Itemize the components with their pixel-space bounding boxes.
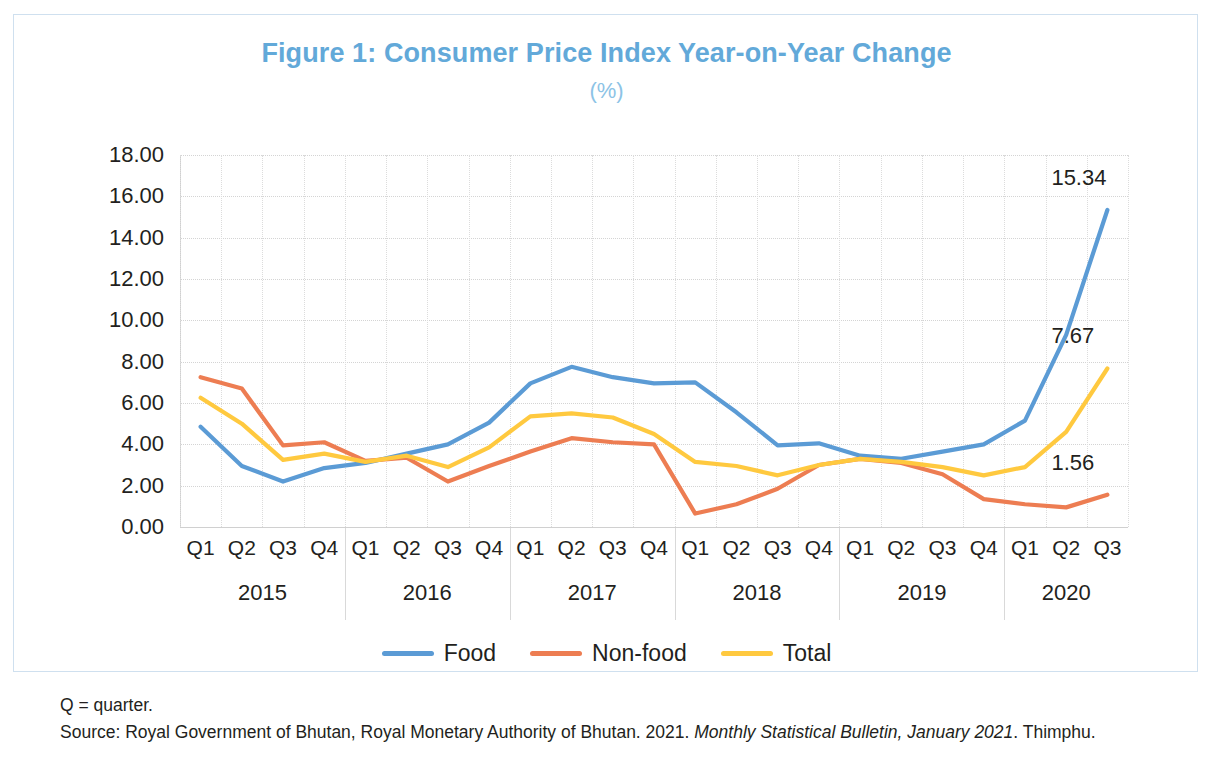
x-axis-quarter-label: Q3	[434, 536, 462, 560]
legend-line-icon	[530, 651, 582, 656]
source-publication: Monthly Statistical Bulletin, January 20…	[694, 722, 1013, 742]
x-axis-quarter-label: Q4	[475, 536, 503, 560]
data-label-non-food: 1.56	[1051, 450, 1094, 476]
x-axis-quarter-label: Q4	[805, 536, 833, 560]
y-axis-tick-label: 16.00	[64, 183, 164, 209]
x-axis-quarter-label: Q3	[269, 536, 297, 560]
x-axis-quarter-label: Q2	[228, 536, 256, 560]
x-axis-quarter-label: Q3	[1093, 536, 1121, 560]
data-label-food: 15.34	[1051, 165, 1106, 191]
x-axis-quarter-label: Q1	[681, 536, 709, 560]
year-separator	[510, 528, 511, 620]
x-axis-quarter-label: Q2	[1052, 536, 1080, 560]
quarter-label-row: Q1Q2Q3Q4Q1Q2Q3Q4Q1Q2Q3Q4Q1Q2Q3Q4Q1Q2Q3Q4…	[180, 536, 1128, 568]
series-line-food	[201, 210, 1108, 482]
x-axis-quarter-label: Q1	[516, 536, 544, 560]
legend-label: Non-food	[592, 640, 687, 667]
x-axis-quarter-label: Q2	[393, 536, 421, 560]
y-axis-tick-label: 0.00	[64, 514, 164, 540]
x-axis-quarter-label: Q1	[1011, 536, 1039, 560]
year-separator	[675, 528, 676, 620]
legend-label: Total	[783, 640, 832, 667]
note-source: Source: Royal Government of Bhutan, Roya…	[60, 719, 1200, 746]
x-axis: Q1Q2Q3Q4Q1Q2Q3Q4Q1Q2Q3Q4Q1Q2Q3Q4Q1Q2Q3Q4…	[180, 527, 1128, 620]
x-axis-quarter-label: Q2	[558, 536, 586, 560]
legend-item-total[interactable]: Total	[721, 640, 832, 667]
x-axis-quarter-label: Q4	[970, 536, 998, 560]
source-suffix: . Thimphu.	[1013, 722, 1095, 742]
legend-item-food[interactable]: Food	[382, 640, 496, 667]
figure-notes: Q = quarter. Source: Royal Government of…	[60, 692, 1200, 746]
x-axis-quarter-label: Q2	[887, 536, 915, 560]
x-axis-quarter-label: Q4	[640, 536, 668, 560]
x-axis-year-label: 2016	[403, 580, 452, 606]
x-axis-quarter-label: Q1	[187, 536, 215, 560]
y-axis-tick-label: 14.00	[64, 225, 164, 251]
source-prefix: Source: Royal Government of Bhutan, Roya…	[60, 722, 694, 742]
x-axis-quarter-label: Q3	[764, 536, 792, 560]
note-abbreviation: Q = quarter.	[60, 692, 1200, 719]
legend-item-non-food[interactable]: Non-food	[530, 640, 687, 667]
x-axis-year-label: 2018	[733, 580, 782, 606]
legend-line-icon	[382, 651, 434, 656]
y-axis-tick-label: 4.00	[64, 431, 164, 457]
year-separator	[1004, 528, 1005, 620]
y-axis-tick-label: 12.00	[64, 266, 164, 292]
legend-line-icon	[721, 651, 773, 656]
series-lines	[180, 155, 1128, 527]
x-axis-year-label: 2017	[568, 580, 617, 606]
year-separator	[345, 528, 346, 620]
y-axis-tick-label: 2.00	[64, 473, 164, 499]
x-axis-year-label: 2015	[238, 580, 287, 606]
x-axis-quarter-label: Q3	[599, 536, 627, 560]
figure-container: Figure 1: Consumer Price Index Year-on-Y…	[0, 0, 1213, 777]
year-label-row: 201520162017201820192020	[180, 580, 1128, 614]
gridline-vertical	[1128, 155, 1129, 527]
x-axis-quarter-label: Q1	[351, 536, 379, 560]
chart-legend: FoodNon-foodTotal	[0, 640, 1213, 667]
x-axis-year-label: 2019	[897, 580, 946, 606]
y-axis-tick-label: 10.00	[64, 307, 164, 333]
x-axis-quarter-label: Q1	[846, 536, 874, 560]
y-axis-tick-label: 8.00	[64, 349, 164, 375]
data-label-total: 7.67	[1051, 323, 1094, 349]
y-axis-tick-label: 6.00	[64, 390, 164, 416]
year-separator	[839, 528, 840, 620]
x-axis-quarter-label: Q4	[310, 536, 338, 560]
x-axis-quarter-label: Q3	[929, 536, 957, 560]
legend-label: Food	[444, 640, 496, 667]
x-axis-quarter-label: Q2	[722, 536, 750, 560]
x-axis-year-label: 2020	[1042, 580, 1091, 606]
y-axis-tick-label: 18.00	[64, 142, 164, 168]
